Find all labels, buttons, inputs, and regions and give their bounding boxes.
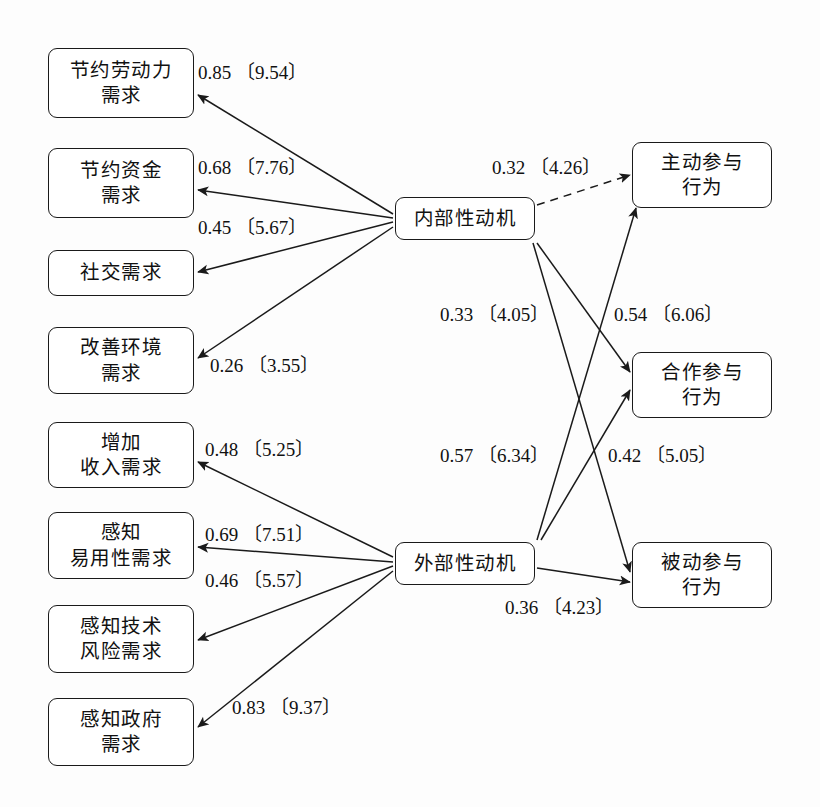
node-r1: 主动参与 行为 xyxy=(632,142,772,208)
node-label: 改善环境 需求 xyxy=(49,335,193,386)
edge-coefficient: 0.57 xyxy=(440,445,473,466)
edge-coefficient: 0.54 xyxy=(614,304,647,325)
edge-tvalue: 4.26 xyxy=(549,157,582,178)
edge-coefficient: 0.33 xyxy=(440,304,473,325)
path-diagram-canvas: 节约劳动力 需求节约资金 需求社交需求改善环境 需求增加 收入需求感知 易用性需… xyxy=(0,0,820,807)
node-n4: 改善环境 需求 xyxy=(48,327,194,394)
edge-label-e13: 0.42 〔5.05〕 xyxy=(608,440,717,467)
node-m1: 内部性动机 xyxy=(395,197,535,240)
edge-coefficient: 0.45 xyxy=(198,217,231,238)
edge-label-e9: 0.32 〔4.26〕 xyxy=(492,152,601,179)
edge-tvalue: 5.05 xyxy=(665,445,698,466)
edge-e4 xyxy=(198,227,393,358)
edge-e6 xyxy=(198,547,393,562)
node-label: 感知技术 风险需求 xyxy=(49,614,193,665)
node-n6: 感知 易用性需求 xyxy=(48,512,194,579)
node-m2: 外部性动机 xyxy=(395,542,535,585)
node-n2: 节约资金 需求 xyxy=(48,148,194,218)
edge-coefficient: 0.36 xyxy=(505,597,538,618)
node-label: 增加 收入需求 xyxy=(49,430,193,481)
node-label: 社交需求 xyxy=(49,260,193,285)
edge-coefficient: 0.69 xyxy=(205,524,238,545)
edge-label-e2: 0.68 〔7.76〕 xyxy=(198,152,307,179)
edge-tvalue: 5.67 xyxy=(255,217,288,238)
edge-coefficient: 0.26 xyxy=(210,355,243,376)
edge-coefficient: 0.48 xyxy=(205,439,238,460)
edge-tvalue: 9.37 xyxy=(289,697,322,718)
edge-tvalue: 4.05 xyxy=(497,304,530,325)
edge-e14 xyxy=(537,568,630,582)
edge-label-e11: 0.57 〔6.34〕 xyxy=(440,440,549,467)
node-n1: 节约劳动力 需求 xyxy=(48,48,194,118)
edge-label-e3: 0.45 〔5.67〕 xyxy=(198,212,307,239)
edge-coefficient: 0.42 xyxy=(608,445,641,466)
edge-tvalue: 6.34 xyxy=(497,445,530,466)
edge-e9 xyxy=(537,175,630,205)
edge-label-e7: 0.46 〔5.57〕 xyxy=(205,565,314,592)
node-r3: 被动参与 行为 xyxy=(632,542,772,608)
node-label: 合作参与 行为 xyxy=(633,360,771,411)
node-n5: 增加 收入需求 xyxy=(48,422,194,488)
node-n7: 感知技术 风险需求 xyxy=(48,605,194,673)
edge-coefficient: 0.68 xyxy=(198,157,231,178)
edge-tvalue: 7.76 xyxy=(255,157,288,178)
edge-label-e4: 0.26 〔3.55〕 xyxy=(210,350,319,377)
edge-label-e6: 0.69 〔7.51〕 xyxy=(205,519,314,546)
edge-coefficient: 0.85 xyxy=(198,62,231,83)
node-label: 被动参与 行为 xyxy=(633,550,771,601)
edge-tvalue: 4.23 xyxy=(562,597,595,618)
edge-label-e1: 0.85 〔9.54〕 xyxy=(198,57,307,84)
node-n8: 感知政府 需求 xyxy=(48,698,194,766)
edge-label-e12: 0.33 〔4.05〕 xyxy=(440,299,549,326)
edge-tvalue: 9.54 xyxy=(255,62,288,83)
edge-label-e14: 0.36 〔4.23〕 xyxy=(505,592,614,619)
node-label: 感知政府 需求 xyxy=(49,707,193,758)
node-n3: 社交需求 xyxy=(48,250,194,296)
edge-tvalue: 7.51 xyxy=(262,524,295,545)
node-label: 感知 易用性需求 xyxy=(49,520,193,571)
edge-tvalue: 5.57 xyxy=(262,570,295,591)
node-r2: 合作参与 行为 xyxy=(632,352,772,418)
edge-coefficient: 0.83 xyxy=(232,697,265,718)
node-label: 节约劳动力 需求 xyxy=(49,58,193,109)
edge-label-e10: 0.54 〔6.06〕 xyxy=(614,299,723,326)
edge-e11 xyxy=(533,243,630,572)
edge-tvalue: 6.06 xyxy=(671,304,704,325)
edge-label-e8: 0.83 〔9.37〕 xyxy=(232,692,341,719)
edge-tvalue: 5.25 xyxy=(262,439,295,460)
node-label: 主动参与 行为 xyxy=(633,150,771,201)
node-label: 外部性动机 xyxy=(396,551,534,576)
node-label: 内部性动机 xyxy=(396,206,534,231)
edge-e12 xyxy=(537,208,636,540)
edge-coefficient: 0.32 xyxy=(492,157,525,178)
edge-coefficient: 0.46 xyxy=(205,570,238,591)
edge-tvalue: 3.55 xyxy=(267,355,300,376)
edge-label-e5: 0.48 〔5.25〕 xyxy=(205,434,314,461)
node-label: 节约资金 需求 xyxy=(49,158,193,209)
